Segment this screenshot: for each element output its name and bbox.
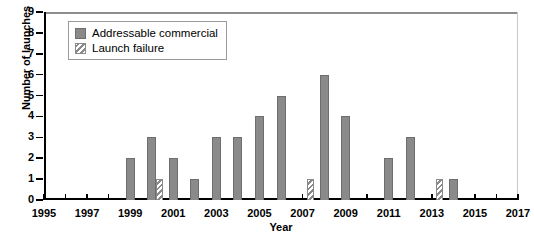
bar-addressable-commercial (147, 137, 156, 200)
legend-swatch-hatch-icon (75, 43, 86, 54)
bar-addressable-commercial (255, 116, 264, 200)
y-axis-tick (36, 95, 43, 97)
y-axis-tick-label: 6 (16, 68, 34, 80)
bar-launch-failure (156, 179, 163, 200)
y-axis-tick-label: 2 (16, 151, 34, 163)
x-axis-tick (517, 194, 519, 200)
y-axis-tick-label: 8 (16, 26, 34, 38)
legend-label: Launch failure (92, 41, 164, 56)
legend-item-addressable-commercial: Addressable commercial (75, 26, 218, 41)
bar-addressable-commercial (126, 158, 135, 200)
bar-addressable-commercial (406, 137, 415, 200)
bar-addressable-commercial (169, 158, 178, 200)
x-axis-tick-label: 2003 (196, 207, 236, 219)
legend-swatch-solid-icon (75, 28, 86, 39)
y-axis-tick (36, 199, 43, 201)
bar-launch-failure (307, 179, 314, 200)
x-axis-tick (86, 194, 88, 200)
bar-addressable-commercial (212, 137, 221, 200)
y-axis-tick (36, 53, 43, 55)
x-axis-tick-label: 2005 (239, 207, 279, 219)
y-axis-line (44, 12, 46, 200)
x-axis-tick-label: 1995 (24, 207, 64, 219)
y-axis-tick (36, 74, 43, 76)
bar-addressable-commercial (233, 137, 242, 200)
plot-area: 0123456789 19951997199920012003200520072… (44, 12, 518, 200)
x-axis-tick (496, 194, 498, 200)
x-axis-tick (108, 194, 110, 200)
x-axis-tick-label: 2001 (153, 207, 193, 219)
x-axis-tick (366, 194, 368, 200)
x-axis-tick (474, 194, 476, 200)
x-axis-tick (302, 194, 304, 200)
y-axis-tick-label: 0 (16, 193, 34, 205)
x-axis-tick-label: 1999 (110, 207, 150, 219)
x-axis-tick-label: 2015 (455, 207, 495, 219)
y-axis-tick (36, 137, 43, 139)
x-axis-tick-label: 1997 (67, 207, 107, 219)
y-axis-tick (36, 116, 43, 118)
y-axis-tick-label: 1 (16, 172, 34, 184)
bar-addressable-commercial (277, 96, 286, 200)
y-axis-tick (36, 178, 43, 180)
y-axis-tick (36, 11, 43, 13)
chart-legend: Addressable commercial Launch failure (68, 21, 227, 60)
x-axis-tick (65, 194, 67, 200)
plot-frame-right (517, 12, 518, 200)
y-axis-tick-label: 3 (16, 130, 34, 142)
legend-label: Addressable commercial (92, 26, 218, 41)
x-axis-tick (431, 194, 433, 200)
launches-bar-chart: Number of launches 0123456789 1995199719… (0, 0, 534, 246)
y-axis-tick-label: 7 (16, 47, 34, 59)
x-axis-tick (43, 194, 45, 200)
bar-addressable-commercial (341, 116, 350, 200)
y-axis-tick-label: 5 (16, 89, 34, 101)
y-axis-tick-label: 4 (16, 109, 34, 121)
x-axis-tick-label: 2011 (369, 207, 409, 219)
bar-addressable-commercial (190, 179, 199, 200)
plot-frame-top (44, 12, 518, 14)
x-axis-tick-label: 2007 (283, 207, 323, 219)
x-axis-tick-label: 2017 (498, 207, 534, 219)
x-axis-tick-label: 2013 (412, 207, 452, 219)
bar-addressable-commercial (320, 75, 329, 200)
y-axis-tick (36, 32, 43, 34)
x-axis-tick-label: 2009 (326, 207, 366, 219)
bar-addressable-commercial (384, 158, 393, 200)
bar-launch-failure (436, 179, 443, 200)
y-axis-tick-label: 9 (16, 5, 34, 17)
x-axis-title: Year (44, 221, 518, 233)
bar-addressable-commercial (449, 179, 458, 200)
y-axis-tick (36, 157, 43, 159)
legend-item-launch-failure: Launch failure (75, 41, 218, 56)
